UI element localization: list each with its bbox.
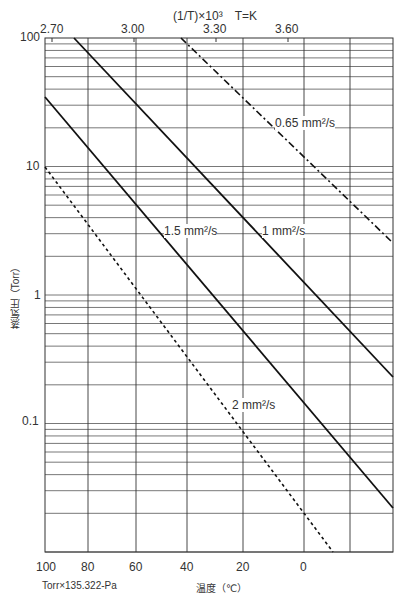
y-tick-100: 100 bbox=[20, 30, 40, 44]
series-label-1: 1 mm²/s bbox=[262, 224, 305, 238]
vapor-pressure-chart bbox=[0, 0, 408, 599]
x-tick-80: 80 bbox=[81, 560, 94, 574]
top-tick-2.70: 2.70 bbox=[40, 22, 63, 36]
y-tick-0.1: 0.1 bbox=[22, 414, 39, 428]
x-tick-0: 0 bbox=[300, 560, 307, 574]
unit-footnote: Torr×135.322-Pa bbox=[42, 580, 117, 591]
x-tick-20: 20 bbox=[236, 560, 249, 574]
x-tick-40: 40 bbox=[180, 560, 193, 574]
horizontal-gridlines bbox=[45, 44, 393, 552]
series-label-1.5: 1.5 mm²/s bbox=[164, 224, 217, 238]
top-axis-title: (1/T)×10³ T=K bbox=[173, 6, 257, 23]
series-1.5-line bbox=[45, 97, 393, 508]
y-tick-10: 10 bbox=[26, 159, 39, 173]
series-label-2: 2 mm²/s bbox=[232, 398, 275, 412]
y-axis-label: 蒸気圧（Torr） bbox=[8, 262, 23, 329]
top-axis-ticks bbox=[52, 38, 288, 42]
x-tick-100: 100 bbox=[36, 560, 56, 574]
top-tick-3.60: 3.60 bbox=[275, 22, 298, 36]
x-tick-60: 60 bbox=[129, 560, 142, 574]
series-0.65-line bbox=[181, 38, 393, 243]
top-tick-3.00: 3.00 bbox=[121, 22, 144, 36]
x-axis-label: 温度（℃） bbox=[196, 580, 247, 595]
y-tick-1: 1 bbox=[34, 288, 41, 302]
series-label-0.65: 0.65 mm²/s bbox=[275, 116, 335, 130]
top-tick-3.30: 3.30 bbox=[203, 22, 226, 36]
